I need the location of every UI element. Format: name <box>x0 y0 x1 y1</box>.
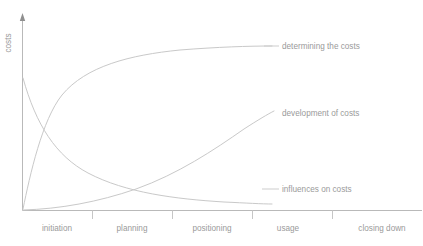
y-axis-label: costs <box>4 33 13 52</box>
series-label-development-of-costs: development of costs <box>282 109 359 118</box>
series-label-influences-on-costs: influences on costs <box>282 185 352 194</box>
x-axis-category-positioning: positioning <box>192 224 232 233</box>
x-axis-category-closing-down: closing down <box>358 224 406 233</box>
series-label-determining-the-costs: determining the costs <box>282 42 360 51</box>
x-axis-category-initiation: initiation <box>42 224 72 233</box>
x-axis-category-usage: usage <box>277 224 300 233</box>
chart-canvas: determining the costs development of cos… <box>0 0 423 246</box>
x-axis-category-planning: planning <box>117 224 148 233</box>
y-axis-arrow-icon <box>20 13 25 21</box>
curve-development-of-costs <box>23 111 274 210</box>
cost-curves-chart: determining the costs development of cos… <box>0 0 423 246</box>
